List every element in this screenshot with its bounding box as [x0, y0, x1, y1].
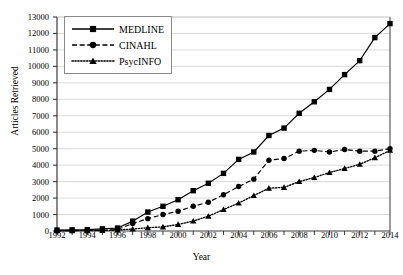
- data-point-marker: [296, 148, 301, 153]
- x-axis-tick-label: 2006: [260, 231, 277, 240]
- data-point-marker: [342, 147, 347, 152]
- data-point-marker: [130, 221, 135, 226]
- legend-sample-circle-icon: [70, 38, 116, 52]
- data-point-marker: [312, 99, 317, 104]
- data-point-marker: [281, 125, 286, 130]
- legend-label: CINAHL: [119, 40, 157, 51]
- data-point-marker: [251, 192, 257, 198]
- legend-item-medline: MEDLINE: [70, 21, 164, 37]
- data-point-marker: [327, 149, 332, 154]
- legend-label: PsycINFO: [119, 56, 161, 67]
- x-axis-tick-label: 2004: [230, 231, 247, 240]
- x-axis-tick-labels: 1992199419961998200020022004200620082010…: [0, 231, 403, 245]
- data-point-marker: [387, 21, 392, 26]
- chart-container: Articles Retrieved 010002000300040005000…: [0, 0, 403, 275]
- legend-item-psycinfo: PsycINFO: [70, 53, 164, 69]
- data-point-marker: [175, 197, 180, 202]
- x-axis-tick-label: 1992: [49, 231, 66, 240]
- legend-item-cinahl: CINAHL: [70, 37, 164, 53]
- data-point-marker: [281, 156, 286, 161]
- chart-legend: MEDLINECINAHLPsycINFO: [64, 16, 172, 74]
- data-point-marker: [236, 200, 242, 206]
- series-line: [57, 150, 390, 230]
- data-point-marker: [236, 184, 241, 189]
- x-axis-tick-label: 2008: [291, 231, 308, 240]
- data-point-marker: [191, 188, 196, 193]
- x-axis-tick-label: 1994: [79, 231, 96, 240]
- data-point-marker: [357, 58, 362, 63]
- x-axis-title: Year: [0, 252, 403, 262]
- data-point-marker: [266, 158, 271, 163]
- data-point-marker: [160, 212, 165, 217]
- data-point-marker: [342, 72, 347, 77]
- data-point-marker: [191, 204, 196, 209]
- x-axis-tick-label: 2010: [321, 231, 338, 240]
- data-point-marker: [372, 148, 377, 153]
- data-point-marker: [145, 209, 150, 214]
- data-point-marker: [90, 26, 96, 32]
- series-cinahl: [54, 146, 392, 233]
- data-point-marker: [296, 111, 301, 116]
- data-point-marker: [327, 87, 332, 92]
- data-point-marker: [175, 209, 180, 214]
- series-psycinfo: [54, 147, 393, 233]
- data-point-marker: [221, 171, 226, 176]
- data-point-marker: [372, 35, 377, 40]
- legend-sample-square-icon: [70, 22, 116, 36]
- x-axis-tick-label: 2002: [200, 231, 217, 240]
- x-axis-tick-label: 2000: [170, 231, 187, 240]
- data-point-marker: [160, 204, 165, 209]
- x-axis-tick-label: 1996: [109, 231, 126, 240]
- legend-label: MEDLINE: [119, 24, 164, 35]
- data-point-marker: [206, 199, 211, 204]
- data-point-marker: [145, 216, 150, 221]
- series-line: [57, 149, 390, 231]
- data-point-marker: [221, 192, 226, 197]
- data-point-marker: [251, 149, 256, 154]
- data-point-marker: [357, 148, 362, 153]
- legend-sample-triangle-icon: [70, 54, 116, 68]
- x-axis-tick-label: 2014: [382, 231, 399, 240]
- data-point-marker: [312, 148, 317, 153]
- x-axis-tick-label: 2012: [351, 231, 368, 240]
- data-point-marker: [266, 133, 271, 138]
- data-point-marker: [206, 181, 211, 186]
- data-point-marker: [90, 42, 96, 48]
- data-point-marker: [311, 174, 317, 180]
- x-axis-tick-label: 1998: [139, 231, 156, 240]
- data-point-marker: [372, 155, 378, 161]
- data-point-marker: [251, 176, 256, 181]
- data-point-marker: [236, 157, 241, 162]
